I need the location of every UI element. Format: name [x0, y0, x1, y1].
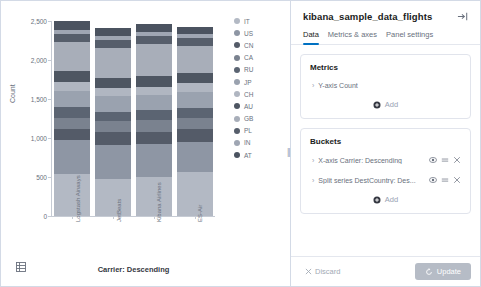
- bar-segment[interactable]: [177, 108, 213, 118]
- table-grid-icon[interactable]: [15, 261, 26, 272]
- bar-segment[interactable]: [54, 71, 90, 82]
- agg-row[interactable]: ›Y-axis Count: [310, 79, 461, 92]
- drag-handle-icon[interactable]: [441, 156, 449, 164]
- x-axis-tick-mark: [154, 216, 155, 219]
- eye-icon[interactable]: [429, 156, 437, 164]
- bar-segment[interactable]: [177, 172, 213, 216]
- legend-item[interactable]: IN: [234, 137, 278, 149]
- agg-row-tools: [429, 156, 461, 164]
- bar-segment[interactable]: [95, 132, 131, 145]
- chevron-right-icon[interactable]: ›: [312, 177, 314, 184]
- buckets-add-label: Add: [385, 195, 398, 204]
- bar-segment[interactable]: [95, 48, 131, 78]
- bar-group[interactable]: [95, 21, 131, 216]
- agg-label: Split series DestCountry: Des...: [318, 177, 425, 184]
- remove-icon[interactable]: [453, 176, 461, 184]
- legend-item[interactable]: IT: [234, 15, 278, 27]
- bar-segment[interactable]: [177, 129, 213, 141]
- bar-stack: [177, 27, 213, 216]
- panel-resize-handle[interactable]: ||: [287, 147, 290, 157]
- bar-segment[interactable]: [136, 110, 172, 121]
- tab-metrics-axes[interactable]: Metrics & axes: [328, 30, 377, 44]
- bar-segment[interactable]: [177, 46, 213, 73]
- bar-segment[interactable]: [136, 36, 172, 44]
- bar-segment[interactable]: [136, 120, 172, 132]
- tab-panel-settings[interactable]: Panel settings: [386, 30, 433, 44]
- refresh-icon: [425, 268, 433, 276]
- bar-group[interactable]: [136, 21, 172, 216]
- collapse-panel-icon[interactable]: [457, 11, 468, 22]
- bar-segment[interactable]: [54, 21, 90, 30]
- bar-segment[interactable]: [136, 95, 172, 110]
- legend-item[interactable]: CN: [234, 39, 278, 51]
- legend-item[interactable]: CA: [234, 52, 278, 64]
- update-label: Update: [437, 267, 461, 276]
- bar-segment[interactable]: [136, 144, 172, 177]
- legend-item[interactable]: AT: [234, 149, 278, 161]
- chevron-right-icon[interactable]: ›: [312, 82, 314, 89]
- bar-segment[interactable]: [95, 28, 131, 36]
- editor-header: kibana_sample_data_flights: [291, 1, 480, 22]
- bar-segment[interactable]: [54, 91, 90, 107]
- agg-row[interactable]: ›Split series DestCountry: Des...: [310, 173, 461, 187]
- bar-segment[interactable]: [95, 88, 131, 96]
- bar-segment[interactable]: [54, 174, 90, 216]
- legend-item[interactable]: AU: [234, 100, 278, 112]
- tab-data[interactable]: Data: [303, 30, 319, 44]
- bar-segment[interactable]: [136, 177, 172, 216]
- legend-label: CN: [244, 42, 253, 49]
- discard-button[interactable]: Discard: [300, 264, 345, 279]
- legend-item[interactable]: PL: [234, 125, 278, 137]
- metrics-title: Metrics: [310, 63, 461, 72]
- buckets-add-button[interactable]: Add: [310, 195, 461, 204]
- legend-label: US: [244, 30, 253, 37]
- visualize-editor-app: Count 05001,0001,5002,0002,500 Logstash …: [0, 0, 481, 287]
- bar-segment[interactable]: [54, 34, 90, 42]
- bar-segment[interactable]: [95, 179, 131, 216]
- y-axis-tick-label: 0: [43, 213, 47, 220]
- bar-segment[interactable]: [136, 24, 172, 32]
- drag-handle-icon[interactable]: [441, 176, 449, 184]
- bar-segment[interactable]: [177, 38, 213, 46]
- bar-segment[interactable]: [177, 118, 213, 129]
- agg-row[interactable]: ›X-axis Carrier: Descending: [310, 153, 461, 167]
- bar-segment[interactable]: [177, 142, 213, 172]
- metrics-add-button[interactable]: Add: [310, 100, 461, 109]
- bar-segment[interactable]: [54, 42, 90, 71]
- chevron-right-icon[interactable]: ›: [312, 157, 314, 164]
- bar-segment[interactable]: [54, 129, 90, 141]
- bar-segment[interactable]: [177, 92, 213, 108]
- legend-item[interactable]: RU: [234, 64, 278, 76]
- bar-segment[interactable]: [95, 78, 131, 88]
- bar-segment[interactable]: [136, 87, 172, 95]
- remove-icon[interactable]: [453, 156, 461, 164]
- bar-segment[interactable]: [177, 73, 213, 84]
- bar-segment[interactable]: [177, 27, 213, 35]
- bar-segment[interactable]: [95, 112, 131, 121]
- bar-segment[interactable]: [54, 107, 90, 118]
- legend-item[interactable]: US: [234, 27, 278, 39]
- x-axis-tick-mark: [113, 216, 114, 219]
- eye-icon[interactable]: [429, 176, 437, 184]
- close-icon: [305, 268, 312, 275]
- bar-segment[interactable]: [136, 44, 172, 75]
- bar-segment[interactable]: [136, 76, 172, 87]
- update-button[interactable]: Update: [415, 263, 471, 280]
- legend-item[interactable]: JP: [234, 76, 278, 88]
- bar-group[interactable]: [54, 21, 90, 216]
- legend-item[interactable]: GB: [234, 113, 278, 125]
- bar-segment[interactable]: [95, 96, 131, 112]
- bar-segment[interactable]: [54, 140, 90, 174]
- bar-segment[interactable]: [95, 121, 131, 132]
- bar-segment[interactable]: [136, 132, 172, 144]
- bar-segment[interactable]: [54, 118, 90, 129]
- metrics-card: Metrics ›Y-axis Count Add: [300, 54, 471, 119]
- bar-segment[interactable]: [177, 83, 213, 92]
- bar-segment[interactable]: [95, 40, 131, 47]
- bar-segment[interactable]: [95, 145, 131, 179]
- legend-item[interactable]: CH: [234, 88, 278, 100]
- editor-title: kibana_sample_data_flights: [303, 11, 432, 22]
- bar-segment[interactable]: [54, 82, 90, 91]
- legend-label: CA: [244, 54, 253, 61]
- bar-group[interactable]: [177, 21, 213, 216]
